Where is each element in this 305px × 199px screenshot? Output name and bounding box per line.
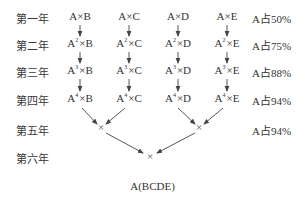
diagonal-arrow-icon	[157, 133, 195, 153]
diagonal-arrow-icon	[106, 108, 125, 124]
diagonal-arrow-icon	[204, 108, 223, 124]
diagonal-arrow-icon	[82, 108, 97, 124]
diagonal-arrow-icon	[106, 133, 143, 153]
diagonal-arrow-icon	[178, 108, 195, 124]
arrow-connectors	[0, 0, 305, 199]
